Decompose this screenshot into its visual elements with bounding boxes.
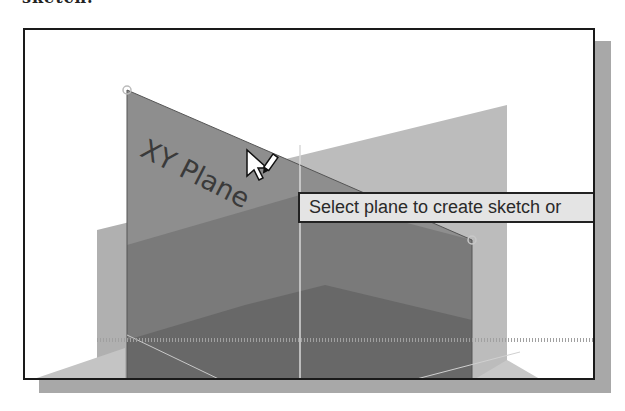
select-plane-tooltip: Select plane to create sketch or	[298, 192, 595, 223]
caption-fragment: sketch.	[22, 0, 94, 7]
graphics-viewport[interactable]: XY Plane Select plane to create sketch o…	[23, 28, 595, 380]
